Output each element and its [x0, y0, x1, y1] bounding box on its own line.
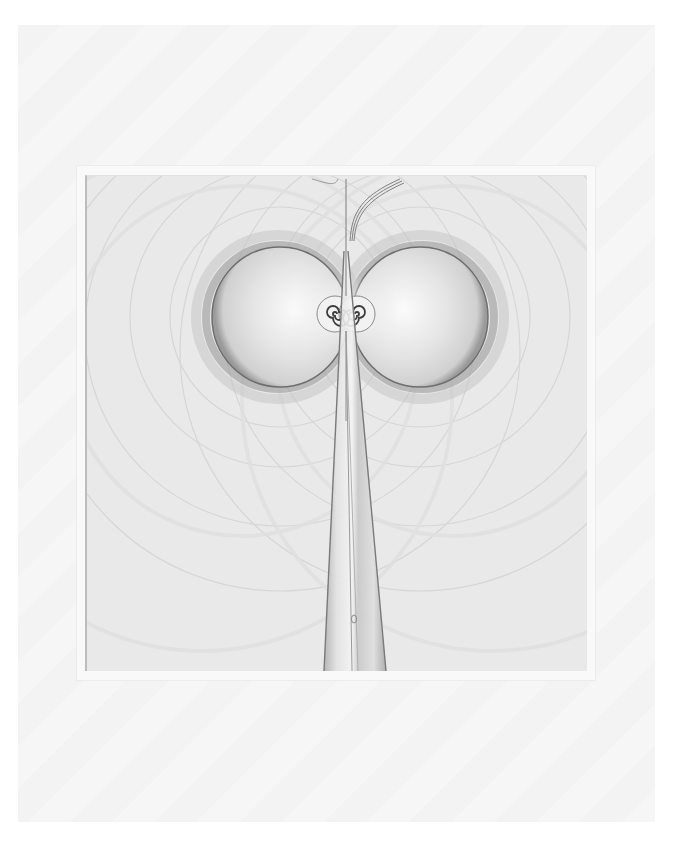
- artwork-panel: [85, 175, 587, 671]
- artwork-drawing: [87, 176, 587, 671]
